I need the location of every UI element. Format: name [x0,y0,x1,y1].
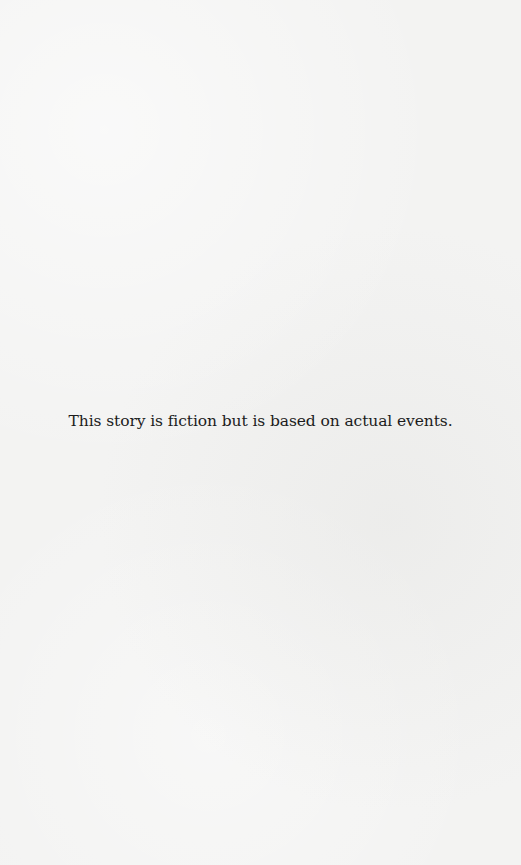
fiction-disclaimer-text: This story is fiction but is based on ac… [0,411,521,431]
book-page: This story is fiction but is based on ac… [0,0,521,865]
